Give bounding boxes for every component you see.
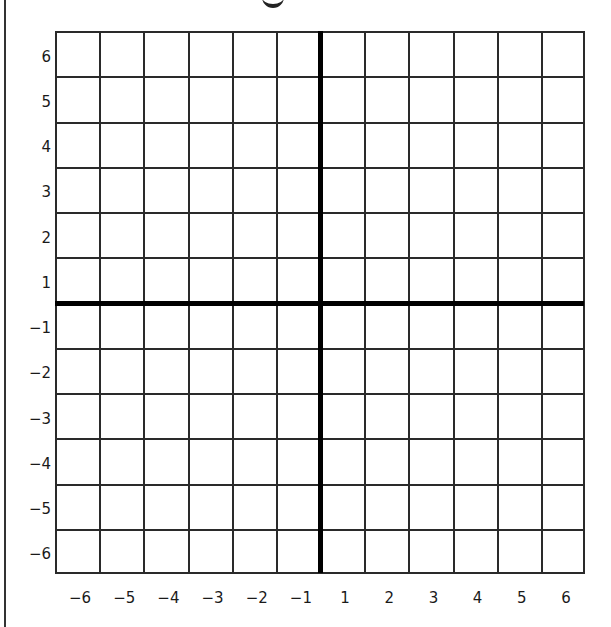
x-tick-label: 3	[413, 589, 453, 607]
x-tick-label: −4	[148, 589, 188, 607]
y-tick-label: −2	[11, 364, 51, 382]
coordinate-grid	[55, 31, 585, 574]
cropped-title-fragment	[262, 0, 284, 8]
page-left-border	[4, 0, 6, 627]
y-tick-label: −6	[11, 545, 51, 563]
y-tick-label: −4	[11, 455, 51, 473]
x-tick-label: −5	[104, 589, 144, 607]
y-tick-label: 4	[11, 138, 51, 156]
x-tick-label: 4	[458, 589, 498, 607]
x-tick-label: 1	[325, 589, 365, 607]
y-tick-label: −5	[11, 500, 51, 518]
y-tick-label: 2	[11, 229, 51, 247]
x-tick-label: 5	[502, 589, 542, 607]
x-tick-label: −6	[60, 589, 100, 607]
x-tick-label: 6	[546, 589, 586, 607]
y-tick-label: −1	[11, 319, 51, 337]
y-tick-label: −3	[11, 410, 51, 428]
x-axis-line	[55, 301, 584, 306]
x-tick-label: −1	[281, 589, 321, 607]
x-tick-label: 2	[369, 589, 409, 607]
y-tick-label: 1	[11, 274, 51, 292]
y-tick-label: 5	[11, 93, 51, 111]
x-tick-label: −3	[193, 589, 233, 607]
x-tick-label: −2	[237, 589, 277, 607]
y-tick-label: 6	[11, 48, 51, 66]
y-tick-label: 3	[11, 183, 51, 201]
